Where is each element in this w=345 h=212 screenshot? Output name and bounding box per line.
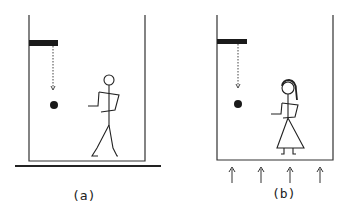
- ledge-b: [217, 39, 247, 44]
- ball-a: [50, 101, 58, 109]
- panel-b: (b): [217, 15, 333, 201]
- man-figure: [88, 75, 119, 156]
- box-b: [217, 15, 333, 160]
- up-arrow-icon: [258, 167, 264, 183]
- up-arrow-icon: [317, 167, 323, 183]
- box-a: [29, 15, 145, 161]
- diagram: (a) (b): [0, 0, 345, 212]
- panel-label-b: (b): [272, 186, 295, 201]
- up-arrow-icon: [229, 167, 235, 183]
- ledge-a: [29, 40, 58, 46]
- ball-b: [234, 100, 242, 108]
- panel-label-a: (a): [72, 188, 95, 203]
- upward-arrows: [229, 167, 323, 183]
- woman-figure: [271, 80, 304, 154]
- up-arrow-icon: [287, 167, 293, 183]
- panel-a: (a): [15, 15, 161, 203]
